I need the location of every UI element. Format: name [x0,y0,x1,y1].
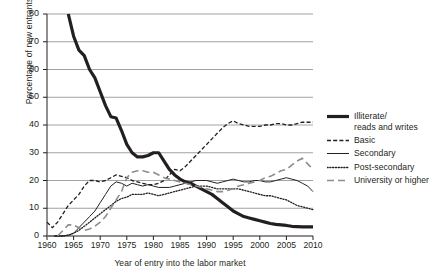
y-tick-label: 40 [13,119,39,129]
legend-item-label: Illiterate/reads and writes [354,111,418,132]
legend-item-label-line2: reads and writes [354,122,418,132]
legend-item[interactable]: Secondary [327,148,445,159]
y-tick-label: 30 [13,147,39,157]
x-tick-label: 1965 [59,240,89,250]
legend-item-label: Secondary [354,148,396,159]
legend-line-sample-icon [327,111,349,122]
legend-item-label: Post-secondary [354,162,414,173]
x-axis-title: Year of entry into the labor market [47,258,313,268]
legend-line-sample-icon [327,175,349,186]
x-tick-label: 1975 [112,240,142,250]
y-tick-label: 50 [13,91,39,101]
chart-figure: Percentage of new entrants Year of entry… [0,0,446,278]
legend-item[interactable]: Basic [327,135,445,146]
legend-item-label: University or higher [354,175,429,186]
y-tick-label: 70 [13,36,39,46]
legend-item[interactable]: Illiterate/reads and writes [327,111,445,132]
legend-line-sample-icon [327,135,349,146]
y-tick-label: 0 [13,230,39,240]
y-tick-label: 20 [13,175,39,185]
x-tick-label: 1985 [165,240,195,250]
x-tick-label: 2005 [271,240,301,250]
y-tick-label: 10 [13,202,39,212]
legend-line-sample-icon [327,148,349,159]
y-tick-label: 80 [13,8,39,18]
x-tick-label: 1960 [32,240,62,250]
x-tick-label: 1970 [85,240,115,250]
legend-line-sample-icon [327,162,349,173]
x-tick-label: 2000 [245,240,275,250]
x-tick-label: 1990 [192,240,222,250]
legend-item-label: Basic [354,135,375,146]
series-line-4 [47,186,313,236]
x-tick-label: 2010 [298,240,328,250]
x-tick-label: 1980 [138,240,168,250]
legend-item[interactable]: University or higher [327,175,445,186]
series-line-3 [47,178,313,236]
chart-legend: Illiterate/reads and writesBasicSecondar… [327,111,445,189]
legend-item[interactable]: Post-secondary [327,162,445,173]
x-tick-label: 1995 [218,240,248,250]
y-tick-label: 60 [13,64,39,74]
